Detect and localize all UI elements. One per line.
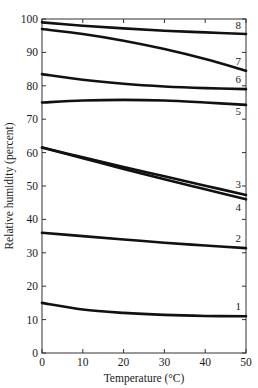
curve-labels: 12345678 xyxy=(236,19,242,312)
y-tick-label: 20 xyxy=(27,280,39,292)
curve-label-5: 5 xyxy=(236,105,242,117)
y-tick-label: 50 xyxy=(27,180,39,192)
y-tick-label: 10 xyxy=(27,314,39,326)
y-tick-label: 30 xyxy=(27,247,39,259)
y-tick-label: 80 xyxy=(27,80,39,92)
curve-label-4: 4 xyxy=(236,201,242,213)
axes xyxy=(42,19,246,353)
x-tick-label: 50 xyxy=(240,356,252,368)
curve-1 xyxy=(42,303,246,316)
curve-5 xyxy=(42,100,246,105)
y-tick-label: 90 xyxy=(27,46,39,58)
curve-2 xyxy=(42,233,246,248)
x-axis-title: Temperature (°C) xyxy=(104,372,185,385)
curve-label-3: 3 xyxy=(236,178,242,190)
curve-6 xyxy=(42,74,246,89)
curves xyxy=(42,22,246,316)
x-tick-label: 20 xyxy=(118,356,130,368)
y-tick-label: 70 xyxy=(27,113,39,125)
curve-4 xyxy=(42,148,246,200)
plot-frame xyxy=(42,19,246,353)
curve-7 xyxy=(42,29,246,71)
humidity-temperature-chart: 010203040500102030405060708090100 123456… xyxy=(0,0,258,388)
y-tick-label: 60 xyxy=(27,147,39,159)
curve-label-6: 6 xyxy=(236,73,242,85)
y-tick-label: 40 xyxy=(27,213,39,225)
curve-label-2: 2 xyxy=(236,232,242,244)
curve-label-1: 1 xyxy=(236,300,242,312)
curve-label-7: 7 xyxy=(236,55,242,67)
x-tick-label: 30 xyxy=(159,356,171,368)
curve-label-8: 8 xyxy=(236,19,242,31)
y-tick-label: 0 xyxy=(32,347,38,359)
y-tick-label: 100 xyxy=(21,13,39,25)
x-tick-label: 10 xyxy=(77,356,89,368)
x-tick-label: 40 xyxy=(199,356,211,368)
y-axis-title: Relative humidity (percent) xyxy=(3,122,16,249)
x-tick-label: 0 xyxy=(39,356,45,368)
